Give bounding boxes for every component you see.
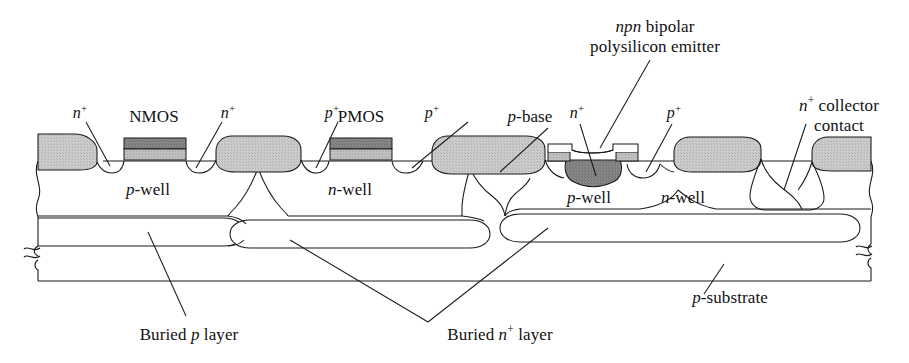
label-nplus-nmos-drain: n+ bbox=[221, 104, 235, 122]
nmos-gate-stack bbox=[124, 138, 186, 160]
label-npn-line2: polysilicon emitter bbox=[590, 37, 720, 57]
pmos-gate-stack bbox=[330, 138, 392, 160]
label-n-well-right: n-well bbox=[661, 188, 705, 208]
label-buried-nplus-layer: Buried n+ layer bbox=[447, 325, 552, 345]
buried-nplus-layer-right bbox=[500, 214, 860, 242]
left-break-symbol bbox=[24, 161, 40, 281]
label-nplus-emitter: n+ bbox=[570, 104, 584, 122]
label-nmos: NMOS bbox=[129, 107, 179, 127]
label-pplus-pmos-drain: p+ bbox=[425, 104, 439, 122]
label-collector-line2: contact bbox=[799, 116, 879, 136]
bicmos-cross-section-figure: n+ NMOS n+ p+ PMOS p+ p-base n+ p+ npn b… bbox=[0, 0, 909, 363]
label-pplus-base-contact: p+ bbox=[667, 104, 681, 122]
label-p-base: p-base bbox=[508, 107, 553, 127]
label-p-substrate: p-substrate bbox=[692, 288, 768, 308]
label-n-well-left: n-well bbox=[328, 180, 372, 200]
buried-nplus-layer-left bbox=[230, 220, 490, 248]
label-collector-line1: n+ collector bbox=[799, 96, 879, 116]
buried-p-layer-shape bbox=[38, 218, 244, 246]
label-npn-bipolar-polysilicon-emitter: npn bipolar polysilicon emitter bbox=[590, 17, 720, 56]
label-nplus-nmos-source: n+ bbox=[73, 104, 87, 122]
label-p-well-right: p-well bbox=[567, 188, 611, 208]
label-npn-line1: npn bipolar bbox=[590, 17, 720, 37]
label-p-well-left: p-well bbox=[126, 180, 170, 200]
label-nplus-collector-contact: n+ collector contact bbox=[799, 96, 879, 135]
label-buried-p-layer: Buried p layer bbox=[140, 325, 239, 345]
label-pmos: PMOS bbox=[338, 107, 385, 127]
